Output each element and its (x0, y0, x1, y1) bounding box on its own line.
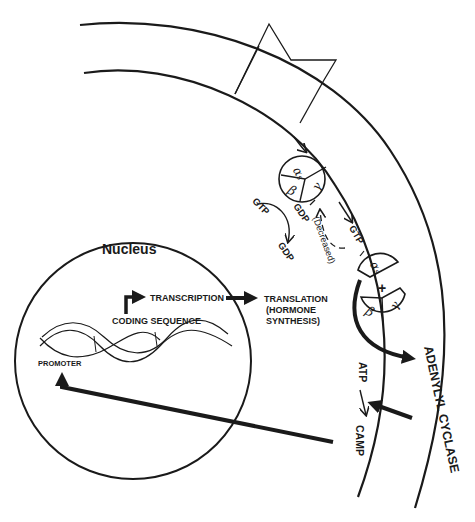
atp-label: ATP (357, 362, 369, 382)
camp-label: CAMP (354, 425, 366, 456)
gamma-active-label: γ (387, 298, 403, 312)
camp-to-promoter-arrow (62, 378, 333, 442)
adenylyl-cyclase-label: ADENYLYL CYCLASE (421, 345, 462, 474)
gdp-release-label: GDP (291, 201, 312, 225)
translation-line-3: SYNTHESIS) (266, 316, 320, 326)
nucleus: Nucleus TRANSCRIPTION CODING SEQUENCE PR… (15, 241, 251, 479)
promoter-label: PROMOTER (38, 359, 82, 368)
inner-membrane (84, 70, 385, 497)
coding-sequence-label: CODING SEQUENCE (112, 316, 201, 326)
plus-sign: + (378, 280, 386, 296)
gdp-output-label: GDP (276, 240, 297, 264)
dna-strand-1 (40, 330, 232, 362)
nucleus-title: Nucleus (102, 241, 157, 257)
cell-signaling-diagram: αs β γ GDP GTP GDP (Decreased) GTP αs + … (0, 0, 475, 522)
g-protein-dissociated: αs + β γ (358, 253, 405, 322)
receptor (235, 24, 336, 123)
atp-to-camp-arrow (360, 390, 366, 415)
activation-arrow (294, 137, 306, 152)
outer-membrane (80, 23, 444, 508)
g-protein-inactive: αs β γ (279, 156, 326, 202)
gamma-label: γ (309, 179, 325, 193)
diagram-canvas: αs β γ GDP GTP GDP (Decreased) GTP αs + … (0, 0, 475, 522)
decreased-label: (Decreased) (311, 215, 337, 265)
translation-line-2: (HORMONE (266, 305, 316, 315)
coding-sequence-arrow (126, 297, 140, 314)
gtp-input-label: GTP (250, 195, 272, 217)
transcription-label: TRANSCRIPTION (150, 293, 224, 303)
alpha-s-active-label: αs (367, 259, 385, 277)
translation-line-1: TRANSLATION (264, 294, 328, 304)
